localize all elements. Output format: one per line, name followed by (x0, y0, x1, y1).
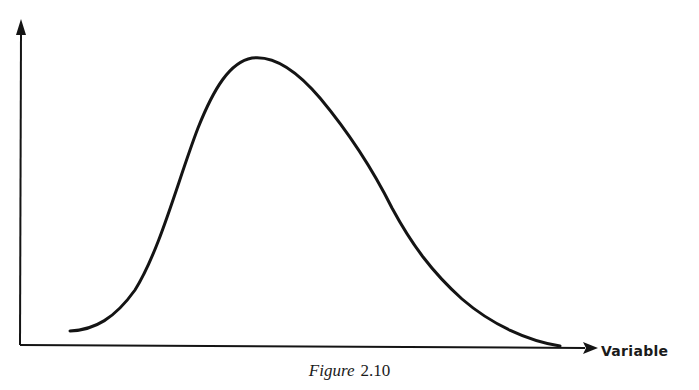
x-axis-label: Variable (601, 343, 668, 359)
caption-word: Figure (309, 361, 355, 380)
x-axis-arrow-icon (583, 342, 598, 354)
distribution-curve (70, 58, 560, 346)
x-axis (20, 345, 585, 348)
figure-caption: Figure2.10 (0, 361, 699, 381)
y-axis-arrow-icon (16, 19, 26, 35)
skewed-distribution-figure (0, 0, 699, 390)
caption-number: 2.10 (360, 361, 390, 380)
y-axis (20, 32, 21, 345)
